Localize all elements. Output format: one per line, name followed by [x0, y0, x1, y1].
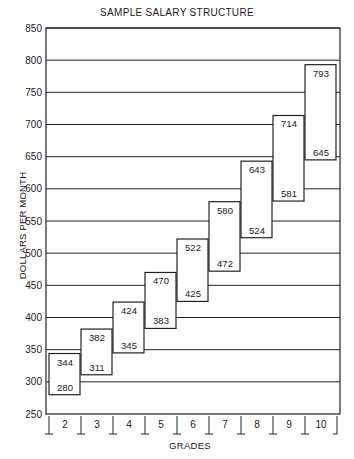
- y-tick-label: 800: [25, 55, 42, 66]
- min-value-label: 311: [89, 362, 104, 373]
- x-tick-label: 8: [254, 419, 260, 430]
- salary-range-bar: [305, 65, 336, 160]
- min-value-label: 383: [153, 315, 169, 326]
- y-tick-label: 450: [25, 280, 42, 291]
- max-value-label: 424: [121, 305, 137, 316]
- y-tick-label: 650: [25, 151, 42, 162]
- y-tick-label: 300: [25, 376, 42, 387]
- min-value-label: 345: [121, 340, 137, 351]
- max-value-label: 470: [153, 275, 169, 286]
- y-tick-label: 400: [25, 312, 42, 323]
- y-tick-label: 700: [25, 119, 42, 130]
- min-value-label: 524: [249, 225, 265, 236]
- y-tick-label: 600: [25, 183, 42, 194]
- y-tick-label: 850: [25, 23, 42, 34]
- max-value-label: 643: [249, 164, 265, 175]
- x-tick-label: 2: [62, 419, 68, 430]
- y-tick-label: 250: [25, 409, 42, 420]
- x-tick-label: 5: [158, 419, 164, 430]
- min-value-label: 280: [57, 382, 73, 393]
- max-value-label: 344: [57, 357, 73, 368]
- min-value-label: 472: [217, 258, 233, 269]
- x-tick-label: 4: [126, 419, 132, 430]
- min-value-label: 645: [313, 147, 329, 158]
- min-value-label: 581: [281, 188, 297, 199]
- x-tick-label: 3: [94, 419, 100, 430]
- y-tick-label: 500: [25, 248, 42, 259]
- max-value-label: 793: [313, 68, 329, 79]
- y-tick-label: 550: [25, 216, 42, 227]
- max-value-label: 522: [185, 242, 201, 253]
- max-value-label: 714: [281, 118, 297, 129]
- min-value-label: 425: [185, 288, 201, 299]
- x-tick-label: 10: [315, 419, 327, 430]
- y-tick-label: 750: [25, 87, 42, 98]
- x-tick-label: 9: [286, 419, 292, 430]
- x-tick-label: 6: [190, 419, 196, 430]
- x-tick-label: 7: [222, 419, 228, 430]
- y-tick-label: 350: [25, 344, 42, 355]
- salary-chart: 2503003504004505005506006507007508008503…: [0, 0, 354, 459]
- max-value-label: 580: [217, 205, 233, 216]
- max-value-label: 382: [89, 332, 105, 343]
